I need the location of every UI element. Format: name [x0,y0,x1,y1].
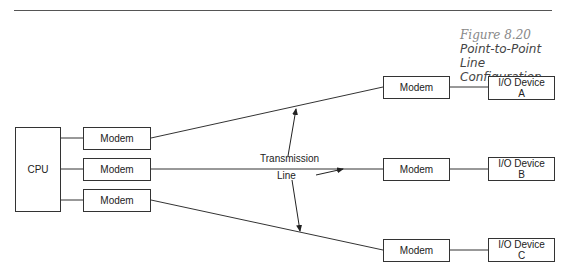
io-device-a: I/O Device A [488,76,555,100]
cpu-label: CPU [27,164,48,175]
modem-label: Modem [400,164,433,175]
io-device-id: C [518,250,525,261]
remote-modem-b: Modem [383,158,450,181]
modem-label: Modem [400,82,433,93]
io-device-id: B [518,169,525,180]
line-label: Line [277,170,296,181]
io-device-id: A [518,88,525,99]
modem-label: Modem [100,133,133,144]
io-device-b: I/O Device B [488,157,555,181]
transmission-label: Transmission [260,153,319,164]
host-modem-1: Modem [83,127,151,150]
host-modem-3: Modem [83,189,151,212]
io-device-label: I/O Device [498,77,545,88]
remote-modem-c: Modem [383,239,450,262]
io-device-c: I/O Device C [488,238,555,262]
remote-modem-a: Modem [383,76,450,99]
modem-label: Modem [100,195,133,206]
cpu-box: CPU [15,127,61,212]
modem-label: Modem [100,164,133,175]
modem-label: Modem [400,245,433,256]
io-device-label: I/O Device [498,239,545,250]
io-device-label: I/O Device [498,158,545,169]
host-modem-2: Modem [83,158,151,181]
